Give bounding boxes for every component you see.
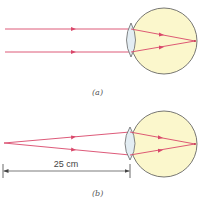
ray-upper-incoming xyxy=(4,132,130,143)
eyeball xyxy=(131,8,197,74)
ray-arrow-icon xyxy=(71,27,76,31)
distance-label: 25 cm xyxy=(54,159,79,169)
caption-a: (a) xyxy=(92,88,103,97)
caption-b: (b) xyxy=(92,189,103,198)
ray-arrow-icon xyxy=(71,135,76,139)
panel-b: 25 cm (b) xyxy=(3,111,197,198)
eye-focusing-diagram: (a) 25 cm (b) xyxy=(0,0,202,202)
eyeball xyxy=(131,111,197,177)
focal-point xyxy=(194,143,196,145)
distance-dimension: 25 cm xyxy=(3,159,130,178)
focal-point xyxy=(194,40,196,42)
ray-lower-incoming xyxy=(4,143,130,155)
panel-a: (a) xyxy=(5,8,197,97)
ray-arrow-icon xyxy=(71,50,76,54)
